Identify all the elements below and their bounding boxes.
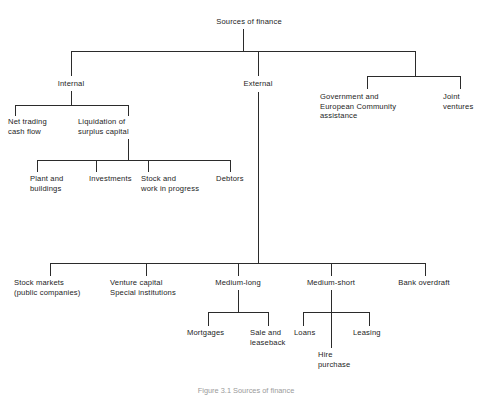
node-medium-long: Medium-long <box>215 278 261 288</box>
node-mortgages: Mortgages <box>187 328 224 338</box>
connector-drop-medium-short <box>331 263 332 276</box>
connector-liquidation-stem <box>128 139 129 160</box>
connector-level1-bus <box>71 51 416 52</box>
connector-drop-loans <box>303 312 304 326</box>
node-bank-overdraft: Bank overdraft <box>398 278 450 288</box>
node-hire-purchase: Hire purchase <box>318 350 350 369</box>
node-net-trading-cash-flow: Net trading cash flow <box>8 117 47 136</box>
connector-medium-long-bus <box>208 312 268 313</box>
connector-external-stem <box>258 92 259 263</box>
node-venture-capital: Venture capital Special institutions <box>110 278 176 297</box>
node-sources-of-finance: Sources of finance <box>216 17 282 27</box>
node-stock-and-work-in-progress: Stock and work in progress <box>141 174 199 193</box>
node-medium-short: Medium-short <box>307 278 355 288</box>
node-external: External <box>243 79 272 89</box>
node-plant-and-buildings: Plant and buildings <box>30 174 63 193</box>
node-debtors: Debtors <box>216 174 244 184</box>
node-stock-markets: Stock markets (public companies) <box>14 278 80 297</box>
connector-drop-plant <box>37 160 38 172</box>
node-internal: Internal <box>58 79 85 89</box>
finance-sources-diagram: Sources of finance Internal Net trading … <box>0 0 493 395</box>
connector-drop-debtors <box>230 160 231 172</box>
connector-liquidation-bus <box>37 160 230 161</box>
node-joint-ventures: Joint ventures <box>443 92 473 111</box>
connector-drop-medium-long <box>238 263 239 276</box>
node-loans: Loans <box>294 328 315 338</box>
connector-drop-internal <box>71 51 72 76</box>
node-liquidation-of-surplus-capital: Liquidation of surplus capital <box>78 117 129 136</box>
connector-internal-stem <box>71 91 72 105</box>
connector-drop-venture-capital <box>146 263 147 276</box>
figure-caption: Figure 3.1 Sources of finance <box>198 386 295 395</box>
connector-drop-liquidation <box>128 105 129 116</box>
connector-drop-external <box>258 51 259 76</box>
node-government-and-european-community-assistance: Government and European Community assist… <box>320 92 396 121</box>
node-investments: Investments <box>89 174 132 184</box>
connector-drop-leasing <box>369 312 370 326</box>
connector-drop-right-group <box>415 51 416 76</box>
connector-medium-short-bus <box>303 312 369 313</box>
connector-drop-hire-purchase <box>331 312 332 348</box>
connector-drop-joint-ventures <box>460 76 461 89</box>
connector-drop-stock-wip <box>148 160 149 172</box>
connector-drop-sale-leaseback <box>268 312 269 326</box>
connector-drop-government <box>367 76 368 89</box>
connector-root-stem <box>243 29 244 51</box>
connector-drop-investments <box>96 160 97 172</box>
connector-medium-long-stem <box>238 290 239 312</box>
connector-drop-bank-overdraft <box>425 263 426 276</box>
node-leasing: Leasing <box>353 328 381 338</box>
connector-drop-mortgages <box>208 312 209 326</box>
node-sale-and-leaseback: Sale and leaseback <box>250 328 286 347</box>
connector-internal-bus <box>15 105 128 106</box>
connector-right-group-bus <box>367 76 460 77</box>
connector-drop-stock-markets <box>50 263 51 276</box>
connector-drop-net-trading <box>15 105 16 116</box>
connector-medium-short-stem <box>331 290 332 312</box>
